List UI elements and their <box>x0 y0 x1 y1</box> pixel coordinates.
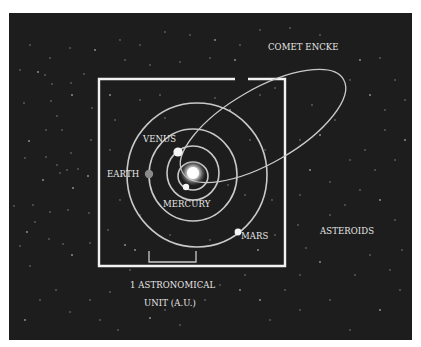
star <box>379 199 381 201</box>
star <box>45 156 46 157</box>
star <box>70 152 71 153</box>
star <box>124 244 126 246</box>
star <box>70 82 71 83</box>
star <box>77 168 78 169</box>
star <box>299 274 300 275</box>
label-mercury: MERCURY <box>163 199 211 209</box>
star <box>134 249 136 251</box>
star <box>299 139 300 140</box>
star <box>28 140 30 142</box>
star <box>329 181 330 182</box>
star <box>89 299 90 300</box>
star <box>119 39 120 40</box>
star <box>259 29 260 30</box>
star <box>94 49 96 51</box>
star <box>401 249 402 250</box>
star <box>50 100 51 101</box>
star <box>297 224 298 225</box>
star <box>117 329 118 330</box>
star <box>274 87 275 88</box>
star <box>369 94 371 96</box>
star <box>204 299 205 300</box>
star <box>384 109 385 110</box>
star <box>389 269 390 270</box>
star <box>249 139 250 140</box>
label-comet-encke: COMET ENCKE <box>268 42 339 52</box>
star <box>49 211 50 212</box>
star <box>51 83 52 84</box>
star <box>109 94 111 96</box>
star <box>44 74 45 75</box>
star <box>239 289 241 291</box>
star <box>19 245 20 246</box>
star <box>29 265 30 266</box>
star <box>66 169 67 170</box>
star <box>90 139 91 140</box>
space-background <box>9 13 412 340</box>
label-asteroids: ASTEROIDS <box>319 226 374 236</box>
star <box>349 79 350 80</box>
star <box>311 104 312 105</box>
star <box>119 199 120 200</box>
star <box>264 149 265 150</box>
star <box>88 212 89 213</box>
star <box>32 204 33 205</box>
star <box>139 44 140 45</box>
star <box>329 214 330 215</box>
star <box>344 204 345 205</box>
star <box>139 99 140 100</box>
star <box>87 175 89 177</box>
star <box>179 61 180 62</box>
star <box>284 289 285 290</box>
star <box>23 102 24 103</box>
star <box>29 44 30 45</box>
star <box>399 289 400 290</box>
star <box>209 239 210 240</box>
star <box>19 69 20 70</box>
star <box>69 47 70 48</box>
label-venus: VENUS <box>142 134 176 144</box>
star <box>109 149 110 150</box>
star <box>91 107 92 108</box>
star <box>404 139 406 141</box>
star <box>62 243 63 244</box>
star <box>354 274 355 275</box>
star <box>114 119 115 120</box>
star <box>71 254 73 256</box>
star <box>34 221 35 222</box>
star <box>309 169 311 171</box>
star <box>289 27 290 28</box>
star <box>349 329 350 330</box>
star <box>257 249 259 251</box>
star <box>259 94 260 95</box>
star <box>13 205 14 206</box>
star <box>39 299 40 300</box>
star <box>159 94 160 95</box>
star <box>149 64 150 65</box>
star <box>83 73 84 74</box>
star <box>227 184 228 185</box>
label-mars: MARS <box>241 231 269 241</box>
star <box>319 261 321 263</box>
star <box>214 39 216 41</box>
star <box>55 289 56 290</box>
star <box>189 34 190 35</box>
label-au-line1: 1 ASTRONOMICAL <box>130 280 216 290</box>
planet-earth <box>145 170 153 178</box>
star <box>239 44 240 45</box>
star <box>269 319 270 320</box>
star <box>45 129 46 130</box>
star <box>149 317 151 319</box>
star <box>26 231 28 233</box>
solar-system-diagram: COMET ENCKE VENUS EARTH MERCURY MARS AST… <box>0 0 421 347</box>
star <box>89 242 90 243</box>
star <box>349 159 350 160</box>
star <box>179 324 180 325</box>
star <box>374 169 375 170</box>
star <box>244 274 245 275</box>
star <box>72 187 74 189</box>
star <box>129 269 130 270</box>
star <box>164 117 165 118</box>
star <box>24 157 25 158</box>
star <box>61 129 62 130</box>
